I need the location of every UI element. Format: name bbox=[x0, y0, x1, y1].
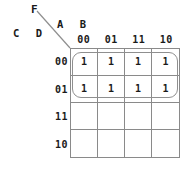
kmap-cell[interactable] bbox=[98, 130, 125, 157]
karnaugh-map-diagram: F A B C D 00 01 11 10 00 01 11 10 1 1 1 … bbox=[0, 0, 190, 169]
column-variables-label: A B bbox=[57, 19, 91, 30]
kmap-cell[interactable] bbox=[125, 103, 152, 130]
kmap-cell[interactable]: 1 bbox=[71, 49, 98, 76]
row-header-0: 00 bbox=[44, 48, 68, 76]
kmap-cell[interactable]: 1 bbox=[152, 49, 179, 76]
kmap-cell[interactable] bbox=[71, 103, 98, 130]
kmap-cell[interactable] bbox=[98, 103, 125, 130]
column-header-row: 00 01 11 10 bbox=[70, 34, 180, 46]
kmap-cell[interactable] bbox=[152, 130, 179, 157]
row-header-1: 01 bbox=[44, 76, 68, 104]
row-header-column: 00 01 11 10 bbox=[44, 48, 68, 158]
row-variables-label: C D bbox=[13, 28, 47, 39]
column-header-3: 10 bbox=[153, 34, 181, 46]
kmap-cell[interactable]: 1 bbox=[125, 49, 152, 76]
kmap-cell[interactable]: 1 bbox=[98, 49, 125, 76]
kmap-cell[interactable]: 1 bbox=[71, 76, 98, 103]
kmap-cell[interactable] bbox=[125, 130, 152, 157]
row-header-2: 11 bbox=[44, 103, 68, 131]
kmap-cell-grid: 1 1 1 1 1 1 1 1 bbox=[70, 48, 180, 158]
column-header-2: 11 bbox=[125, 34, 153, 46]
row-header-3: 10 bbox=[44, 131, 68, 159]
kmap-cell[interactable] bbox=[152, 103, 179, 130]
kmap-cell[interactable] bbox=[71, 130, 98, 157]
kmap-cell[interactable]: 1 bbox=[152, 76, 179, 103]
kmap-cell[interactable]: 1 bbox=[98, 76, 125, 103]
kmap-cell[interactable]: 1 bbox=[125, 76, 152, 103]
column-header-1: 01 bbox=[98, 34, 126, 46]
column-header-0: 00 bbox=[70, 34, 98, 46]
